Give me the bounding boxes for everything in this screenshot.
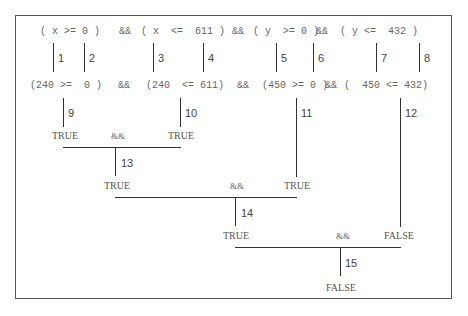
and-operator: &&: [325, 80, 337, 92]
substituted-x-max: (240 <= 611): [146, 80, 224, 92]
step-label-13: 13: [121, 157, 133, 169]
step-label-15: 15: [345, 257, 357, 269]
step-label-4: 4: [208, 52, 214, 64]
step-label-7: 7: [381, 52, 387, 64]
condition-x-max: ( x <= 611 ): [141, 26, 225, 38]
and-operator: &&: [111, 130, 125, 142]
step-line-10: [180, 98, 181, 127]
step-line-1: [53, 43, 54, 72]
step-label-3: 3: [158, 52, 164, 64]
result-y-min: TRUE: [284, 180, 310, 192]
step-label-5: 5: [281, 52, 287, 64]
step-label-12: 12: [405, 107, 417, 119]
step-label-2: 2: [89, 52, 95, 64]
step-line-4: [203, 43, 204, 72]
step-line-9: [63, 98, 64, 127]
and-operator: &&: [119, 26, 131, 38]
result-x-max: TRUE: [168, 130, 194, 142]
step-line-7: [376, 43, 377, 72]
condition-x-min: ( x >= 0 ): [40, 26, 100, 38]
merge-line-2: [115, 197, 297, 198]
and-operator: &&: [237, 80, 249, 92]
step-label-14: 14: [241, 207, 253, 219]
step-label-1: 1: [58, 52, 64, 64]
step-line-6: [313, 43, 314, 72]
result-x-min: TRUE: [52, 130, 78, 142]
result-x-range: TRUE: [104, 180, 130, 192]
step-line-2: [84, 43, 85, 72]
step-line-8: [419, 43, 420, 72]
substituted-y-max: ( 450 <= 432): [344, 80, 428, 92]
step-label-8: 8: [424, 52, 430, 64]
step-label-11: 11: [301, 107, 312, 119]
merge-line-3: [235, 247, 401, 248]
merge-line-1: [63, 147, 181, 148]
substituted-y-min: (450 >= 0 ): [262, 80, 328, 92]
step-label-10: 10: [185, 107, 197, 119]
step-line-14: [235, 197, 236, 226]
step-line-11: [296, 98, 297, 177]
result-partial: TRUE: [223, 230, 249, 242]
final-result: FALSE: [326, 282, 356, 294]
step-label-9: 9: [68, 107, 74, 119]
result-y-max: FALSE: [384, 230, 414, 242]
step-line-13: [115, 147, 116, 176]
step-line-3: [153, 43, 154, 72]
step-line-12: [400, 98, 401, 227]
and-operator: &&: [118, 80, 130, 92]
step-label-6: 6: [318, 52, 324, 64]
and-operator: &&: [336, 230, 350, 242]
condition-y-min: ( y >= 0 ): [253, 26, 319, 38]
substituted-x-min: (240 >= 0 ): [30, 80, 102, 92]
condition-y-max: ( y <= 432 ): [340, 26, 418, 38]
and-operator: &&: [232, 26, 244, 38]
and-operator: &&: [316, 26, 328, 38]
step-line-5: [276, 43, 277, 72]
and-operator: &&: [230, 180, 244, 192]
step-line-15: [340, 247, 341, 276]
